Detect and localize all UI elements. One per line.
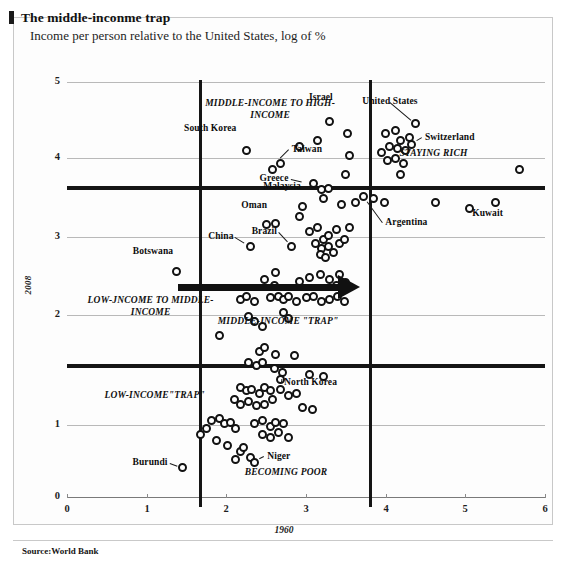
gridline-y5	[67, 82, 545, 83]
data-point	[329, 248, 338, 257]
y-tick-1: 1	[44, 418, 60, 429]
data-point	[345, 223, 354, 232]
country-label: Israel	[309, 92, 333, 102]
source-note: Source:World Bank	[22, 546, 99, 556]
source-divider	[13, 540, 553, 541]
quadrant-label: LOW-INCOME"TRAP"	[85, 390, 225, 402]
data-point	[431, 198, 440, 207]
data-point	[231, 424, 240, 433]
label-leader-line	[417, 137, 422, 141]
gridline-y1	[67, 425, 545, 426]
data-point	[292, 297, 301, 306]
data-point	[351, 198, 360, 207]
country-label: Oman	[241, 200, 267, 210]
x-tickmark-5	[465, 494, 466, 498]
data-point	[343, 129, 352, 138]
data-point	[341, 170, 350, 179]
x-axis-label: 1960	[0, 525, 568, 535]
data-point	[279, 419, 288, 428]
label-leader-line	[259, 456, 264, 459]
data-point	[396, 170, 405, 179]
data-point	[345, 151, 354, 160]
x-tickmark-6	[545, 494, 546, 498]
divider-low-income	[67, 364, 545, 368]
data-point	[308, 405, 317, 414]
data-point	[491, 198, 500, 207]
data-point	[399, 159, 408, 168]
data-point	[316, 270, 325, 279]
x-tickmark-3	[306, 494, 307, 498]
y-tick-2: 2	[44, 308, 60, 319]
y-tick-3: 3	[44, 230, 60, 241]
country-label: Kuwait	[472, 208, 503, 218]
data-point	[212, 436, 221, 445]
x-tickmark-2	[226, 494, 227, 498]
country-label: South Korea	[184, 123, 236, 133]
quadrant-label: MIDDLE-INCOME "TRAP"	[208, 316, 348, 328]
country-label: Botswana	[133, 246, 173, 256]
country-label: Brazil	[252, 226, 277, 236]
country-label: Burundi	[133, 457, 168, 467]
x-tick-5: 5	[455, 503, 475, 514]
country-label: Argentina	[385, 217, 427, 227]
x-tickmark-0	[67, 494, 68, 498]
y-tick-0: 0	[44, 490, 60, 501]
data-point	[250, 297, 259, 306]
transition-arrow-shaft	[178, 284, 340, 291]
data-point	[411, 119, 420, 128]
scatter-plot: 5 4 3 2 1 0 0 1 2 3 4 5 6 2008 1960 MIDD…	[0, 0, 568, 579]
data-point	[324, 231, 333, 240]
data-point	[258, 358, 267, 367]
data-point	[298, 202, 307, 211]
data-point	[178, 463, 187, 472]
y-axis-label: 2008	[23, 255, 33, 315]
x-tick-3: 3	[296, 503, 316, 514]
label-leader-line	[235, 237, 245, 244]
data-point	[324, 184, 333, 193]
data-point	[266, 386, 275, 395]
quadrant-label: STAYING RICH	[363, 148, 503, 160]
data-point	[292, 389, 301, 398]
divider-high-income	[67, 186, 545, 190]
gridline-y3	[67, 237, 545, 238]
country-label: North Korea	[284, 377, 337, 387]
data-point	[313, 223, 322, 232]
country-label: Taiwan	[292, 144, 322, 154]
x-tick-4: 4	[376, 503, 396, 514]
country-label: Malaysia	[263, 181, 301, 191]
data-point	[359, 192, 368, 201]
data-point	[274, 428, 283, 437]
x-tick-2: 2	[216, 503, 236, 514]
data-point	[242, 146, 251, 155]
data-point	[239, 443, 248, 452]
country-label: Switzerland	[425, 132, 475, 142]
quadrant-label: BECOMING POOR	[216, 467, 356, 479]
data-point	[295, 212, 304, 221]
divider-left-vertical	[199, 80, 202, 507]
data-point	[369, 194, 378, 203]
data-point	[515, 165, 524, 174]
data-point	[391, 126, 400, 135]
data-point	[223, 441, 232, 450]
data-point	[215, 331, 224, 340]
x-tickmark-1	[147, 494, 148, 498]
data-point	[287, 242, 296, 251]
data-point	[271, 268, 280, 277]
data-point	[319, 194, 328, 203]
x-tick-0: 0	[57, 503, 77, 514]
data-point	[340, 235, 349, 244]
data-point	[298, 403, 307, 412]
x-tick-6: 6	[535, 503, 555, 514]
y-tick-4: 4	[44, 151, 60, 162]
x-tick-1: 1	[137, 503, 157, 514]
data-point	[268, 395, 277, 404]
data-point	[381, 129, 390, 138]
data-point	[246, 242, 255, 251]
data-point	[260, 343, 269, 352]
transition-arrow-head	[338, 275, 360, 299]
divider-right-vertical	[369, 80, 372, 507]
data-point	[172, 267, 181, 276]
y-tick-5: 5	[44, 75, 60, 86]
data-point	[231, 455, 240, 464]
x-tickmark-4	[386, 494, 387, 498]
